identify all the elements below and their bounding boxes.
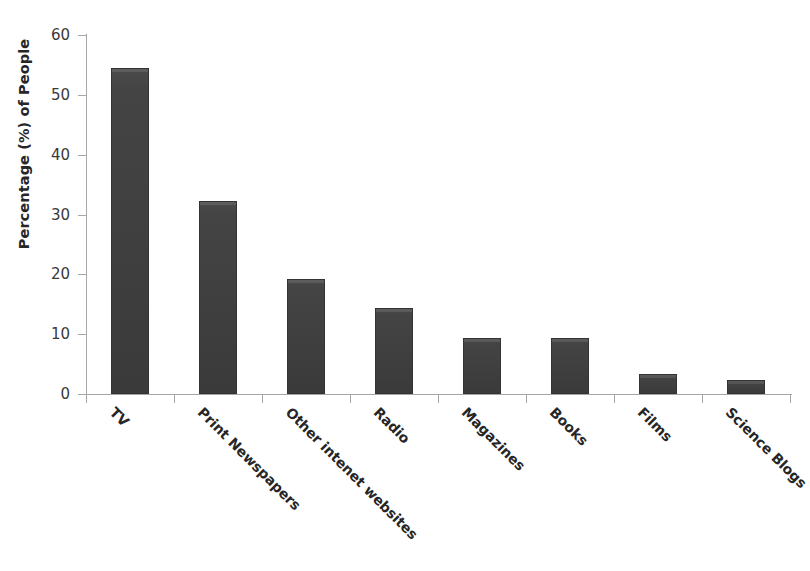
bar-chart: Percentage (%) of People 0102030405060 T… xyxy=(0,0,810,571)
x-axis-tick xyxy=(438,394,439,403)
y-axis-tick-label: 10 xyxy=(36,325,70,343)
x-axis-category-label: Magazines xyxy=(459,404,529,474)
y-axis-tick xyxy=(78,35,86,36)
x-axis-tick xyxy=(262,394,263,403)
x-axis-category-label: Science Blogs xyxy=(723,404,810,491)
plot-area xyxy=(86,35,790,394)
x-axis-category-label: TV xyxy=(107,404,133,430)
bar xyxy=(375,308,413,394)
y-axis-tick-label: 30 xyxy=(36,206,70,224)
bar xyxy=(727,380,765,394)
x-axis-line xyxy=(78,394,792,395)
x-axis-tick xyxy=(350,394,351,403)
bar xyxy=(463,338,501,394)
y-axis-title: Percentage (%) of People xyxy=(16,0,40,344)
y-axis-tick xyxy=(78,95,86,96)
y-axis-tick-label: 0 xyxy=(36,385,70,403)
x-axis-tick xyxy=(86,394,87,403)
y-axis-tick xyxy=(78,215,86,216)
bar xyxy=(111,68,149,394)
bar xyxy=(287,279,325,394)
x-axis-tick xyxy=(614,394,615,403)
y-axis-tick xyxy=(78,155,86,156)
y-axis-tick xyxy=(78,274,86,275)
y-axis-tick-label: 60 xyxy=(36,26,70,44)
x-axis-tick xyxy=(702,394,703,403)
y-axis-tick-label: 40 xyxy=(36,146,70,164)
x-axis-tick xyxy=(790,394,791,403)
x-axis-category-label: Films xyxy=(635,404,676,445)
bar xyxy=(551,338,589,394)
y-axis-tick-label: 20 xyxy=(36,265,70,283)
x-axis-tick xyxy=(174,394,175,403)
bar xyxy=(639,374,677,394)
y-axis-tick-label: 50 xyxy=(36,86,70,104)
x-axis-category-label: Radio xyxy=(371,404,414,447)
y-axis-tick xyxy=(78,394,86,395)
bar xyxy=(199,201,237,394)
x-axis-tick xyxy=(526,394,527,403)
y-axis-tick xyxy=(78,334,86,335)
x-axis-category-label: Books xyxy=(547,404,592,449)
